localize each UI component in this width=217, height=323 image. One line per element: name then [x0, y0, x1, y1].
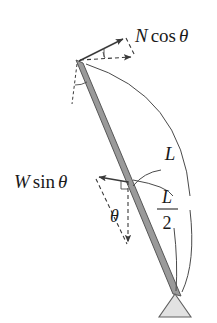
rod-shaft: [76, 60, 181, 296]
pivot-vertical-reference-line: [72, 64, 77, 104]
length-half-numerator: L: [161, 187, 172, 207]
rod-pivot-diagram: Ncosθ Wsinθ L L 2 θ: [0, 0, 217, 323]
support-triangle: [159, 294, 191, 317]
length-L-label: L: [164, 143, 176, 164]
pivot-angle-arc: [75, 82, 87, 85]
length-half-label: L 2: [157, 187, 178, 233]
normal-force-label: Ncosθ: [134, 25, 188, 46]
theta-angle-arc: [133, 170, 161, 186]
weight-component-function: sin: [33, 171, 56, 192]
length-L-arc-lower: [182, 210, 192, 292]
length-half-denominator: 2: [163, 213, 172, 233]
normal-force-function: cos: [151, 25, 176, 46]
pivot-support-icon: [159, 294, 191, 317]
theta-angle-label: θ: [110, 206, 119, 226]
weight-component-arrow: [99, 177, 128, 182]
weight-component-symbol: W: [14, 171, 32, 192]
weight-component-label: Wsinθ: [14, 171, 67, 192]
normal-force-angle: θ: [179, 25, 188, 46]
length-L-arc: [86, 64, 190, 196]
weight-component-angle: θ: [58, 171, 67, 192]
normal-force-component-connector: [126, 38, 135, 56]
rod: [76, 60, 181, 296]
normal-force-vector-group: [79, 38, 135, 61]
normal-force-symbol: N: [134, 25, 149, 46]
physics-diagram-figure: Ncosθ Wsinθ L L 2 θ: [0, 0, 217, 323]
